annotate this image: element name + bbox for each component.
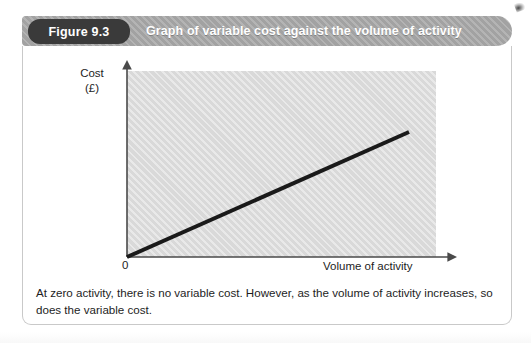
figure-title: Graph of variable cost against the volum…: [146, 16, 462, 46]
figure-banner: Figure 9.3 Graph of variable cost agains…: [22, 16, 512, 46]
y-axis-label-line-2: (£): [63, 81, 121, 96]
figure-container: Figure 9.3 Graph of variable cost agains…: [0, 0, 531, 343]
figure-card: Cost (£) 0 Volume of activity At zero ac…: [22, 46, 512, 325]
scan-page-edge: [0, 332, 531, 343]
figure-caption: At zero activity, there is no variable c…: [36, 284, 502, 318]
variable-cost-line: [127, 132, 409, 257]
scan-artifact-speck: [514, 1, 526, 13]
figure-number-badge: Figure 9.3: [28, 19, 130, 44]
origin-label: 0: [122, 259, 128, 271]
x-axis-label: Volume of activity: [323, 260, 412, 272]
figure-number-label: Figure 9.3: [48, 25, 109, 39]
chart: Cost (£) 0 Volume of activity: [23, 46, 513, 271]
y-axis-label-line-1: Cost: [63, 66, 121, 81]
y-axis-label: Cost (£): [63, 66, 121, 96]
